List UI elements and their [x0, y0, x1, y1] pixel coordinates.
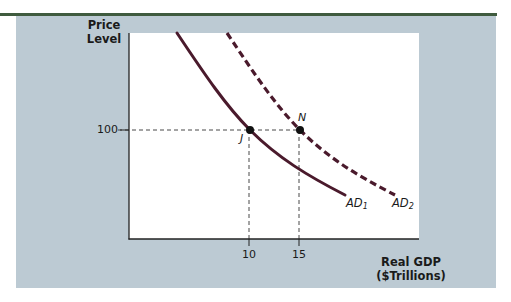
- y-axis-label: Price Level: [82, 18, 126, 46]
- x-axis-label-line1: Real GDP: [366, 255, 456, 269]
- ad2-label: AD2: [392, 196, 414, 211]
- x-axis-label-line2: ($Trillions): [366, 269, 456, 283]
- point-j-label: J: [240, 132, 243, 145]
- x-axis-label: Real GDP ($Trillions): [366, 255, 456, 283]
- point-j-marker: [246, 126, 254, 134]
- ad1-label: AD1: [346, 196, 368, 211]
- ad1-label-main: AD: [346, 196, 363, 210]
- ad1-label-sub: 1: [363, 202, 368, 211]
- point-n-label: N: [298, 111, 306, 124]
- plot-area: [129, 33, 419, 239]
- ad2-label-sub: 2: [409, 202, 414, 211]
- point-n-marker: [296, 126, 304, 134]
- y-axis-label-line2: Level: [82, 32, 126, 46]
- x-tick-label-15: 15: [292, 248, 306, 261]
- x-tick-label-10: 10: [242, 248, 256, 261]
- ad2-label-main: AD: [392, 196, 409, 210]
- y-axis-label-line1: Price: [82, 18, 126, 32]
- y-tick-label-100: 100: [97, 123, 118, 136]
